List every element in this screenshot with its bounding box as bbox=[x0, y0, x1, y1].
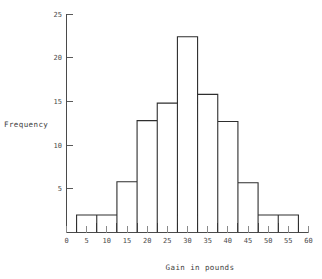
x-tick-label-0: 0 bbox=[64, 237, 68, 245]
x-tick-label-20: 20 bbox=[143, 237, 151, 245]
y-tick-label-25: 25 bbox=[54, 11, 62, 19]
x-tick-label-45: 45 bbox=[244, 237, 252, 245]
x-tick-label-30: 30 bbox=[183, 237, 191, 245]
x-tick-label-35: 35 bbox=[203, 237, 211, 245]
x-axis-title: Gain in pounds bbox=[166, 263, 235, 272]
histogram-plot: 25 20 15 10 5 bbox=[0, 0, 322, 279]
histogram-figure: 25 20 15 10 5 bbox=[0, 0, 322, 279]
y-tick-label-5: 5 bbox=[58, 185, 62, 193]
y-tick-label-15: 15 bbox=[54, 98, 62, 106]
x-tick-label-10: 10 bbox=[103, 237, 111, 245]
x-tick-label-50: 50 bbox=[264, 237, 272, 245]
x-tick-label-25: 25 bbox=[163, 237, 171, 245]
y-tick-label-10: 10 bbox=[54, 142, 62, 150]
figure-background bbox=[0, 0, 322, 279]
x-tick-label-60: 60 bbox=[304, 237, 312, 245]
x-tick-label-15: 15 bbox=[123, 237, 131, 245]
x-tick-label-40: 40 bbox=[224, 237, 232, 245]
y-tick-label-20: 20 bbox=[54, 54, 62, 62]
x-tick-label-5: 5 bbox=[85, 237, 89, 245]
y-axis-title: Frequency bbox=[4, 120, 48, 129]
x-tick-label-55: 55 bbox=[284, 237, 292, 245]
